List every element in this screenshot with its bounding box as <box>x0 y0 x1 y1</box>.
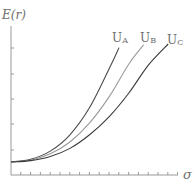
y-axis-label: E(r) <box>1 8 26 22</box>
series-lines <box>11 44 168 162</box>
series-label-c: UC <box>167 33 183 47</box>
series-line-a <box>11 48 119 162</box>
x-axis-label: σ <box>183 167 193 181</box>
series-label-a: UA <box>112 31 128 45</box>
chart: E(r) σ UAUBUC <box>0 0 194 181</box>
series-label-b: UB <box>140 31 156 45</box>
series-line-c <box>11 44 168 162</box>
series-labels: UAUBUC <box>112 31 183 47</box>
